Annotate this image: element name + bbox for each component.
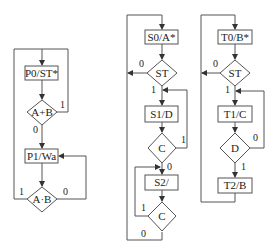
left-diagram: P0/ST* A+B 1 0 P1/Wa A·B 1 0: [14, 49, 86, 212]
branch-label: 1: [141, 202, 146, 213]
asm-chart-canvas: P0/ST* A+B 1 0 P1/Wa A·B 1 0 S0/A* ST 0 …: [0, 0, 276, 247]
state-label: S1/D: [150, 108, 173, 120]
decision-label: A·B: [33, 193, 52, 205]
state-label: T2/B: [224, 179, 247, 191]
decision-label: C: [158, 142, 165, 154]
branch-label: 1: [19, 186, 24, 197]
branch-label: 0: [141, 228, 146, 239]
branch-label: 1: [225, 84, 230, 95]
branch-label: 0: [167, 161, 172, 172]
decision-label: A+B: [31, 106, 52, 118]
decision-label: D: [231, 142, 239, 154]
branch-label: 1: [181, 134, 186, 145]
right-diagram: T0/B* ST 0 1 T1/C D 0 1 T2/B: [201, 15, 264, 202]
state-label: S2/: [154, 176, 170, 188]
branch-label: 1: [60, 99, 65, 110]
branch-label: 1: [151, 84, 156, 95]
branch-label: 0: [63, 186, 68, 197]
decision-label: ST: [229, 67, 242, 79]
state-label: P1/Wa: [27, 150, 56, 162]
decision-label: ST: [156, 67, 169, 79]
branch-label: 0: [139, 58, 144, 69]
state-label: S0/A*: [147, 31, 175, 43]
branch-label: 0: [253, 132, 258, 143]
branch-label: 0: [33, 124, 38, 135]
decision-label: C: [158, 210, 165, 222]
middle-diagram: S0/A* ST 0 1 S1/D C 1 0 S2/ C 1 0: [127, 15, 187, 240]
loop-line: [57, 156, 86, 199]
state-label: T0/B*: [221, 31, 249, 43]
branch-label: 0: [213, 58, 218, 69]
branch-label: 1: [241, 161, 246, 172]
state-label: P0/ST*: [25, 67, 58, 79]
state-label: T1/C: [224, 108, 247, 120]
